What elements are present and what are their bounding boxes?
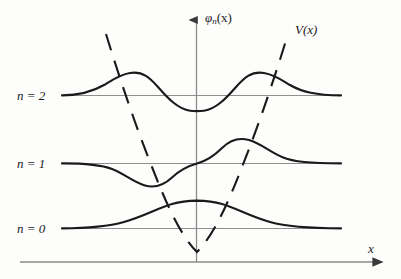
x-axis-label-text: x [368, 241, 374, 256]
plot-canvas [0, 0, 401, 279]
level-label-n2: n = 2 [17, 88, 45, 104]
level-label-n0: n = 0 [17, 221, 45, 237]
y-axis-label-arg: (x) [217, 10, 232, 25]
potential-label: V(x) [295, 22, 317, 38]
level-label-n2-text: n = 2 [17, 88, 45, 103]
wavefunction-curve-n1 [62, 139, 341, 187]
level-label-n1-text: n = 1 [17, 156, 45, 171]
x-axis-label: x [368, 241, 374, 257]
level-label-n0-text: n = 0 [17, 221, 45, 236]
wavefunction-curve-n0 [62, 201, 341, 229]
wavefunction-curve-n2 [62, 73, 341, 111]
y-axis-label: φn(x) [205, 10, 232, 26]
harmonic-oscillator-figure: n = 2 n = 1 n = 0 φn(x) V(x) x [0, 0, 401, 279]
potential-label-text: V(x) [295, 22, 317, 37]
level-label-n1: n = 1 [17, 156, 45, 172]
